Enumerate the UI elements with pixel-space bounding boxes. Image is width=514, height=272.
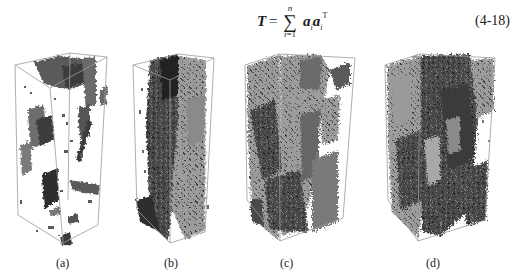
summation: n ∑ i=1: [279, 4, 301, 39]
caption-panel-a: (a): [56, 256, 69, 271]
equation-lhs: T: [257, 13, 266, 30]
equals-sign: =: [269, 13, 277, 30]
equation-block: T = n ∑ i=1 aiaiT (4-18): [0, 0, 514, 40]
panel-b-3d-box: [133, 54, 214, 243]
caption-panel-b: (b): [164, 256, 178, 271]
sum-start: =1: [286, 29, 296, 39]
figure-3d-fracture-panels: (a) (b) (c) (d): [0, 40, 514, 272]
equation-number: (4-18): [475, 13, 510, 29]
panel-d-3d-box: [385, 54, 495, 241]
subscript-i: i: [320, 23, 322, 32]
panel-a-3d-box: [15, 53, 108, 246]
caption-panel-d: (d): [426, 256, 440, 271]
panel-c-3d-box: [245, 54, 355, 241]
vector-a: a: [303, 13, 311, 29]
transpose-superscript: T: [322, 11, 327, 20]
sigma-symbol: ∑: [279, 13, 301, 30]
caption-panel-c: (c): [280, 256, 293, 271]
equation-rhs-term: aiaiT: [303, 13, 327, 32]
